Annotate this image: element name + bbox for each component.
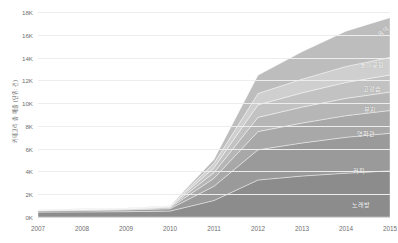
stacked-area-chart: 카테고리 총 매출 (단위: 건) 0K2K4K6K8K10K12K14K16K… xyxy=(0,0,398,243)
y-axis-tick-label: 16K xyxy=(0,31,33,38)
x-axis-tick-label: 2011 xyxy=(207,225,221,232)
y-axis-tick-label: 18K xyxy=(0,9,33,16)
gridline xyxy=(38,103,390,104)
gridline xyxy=(38,80,390,81)
series-label: 놀이공원 xyxy=(360,60,384,69)
x-axis-tick-label: 2014 xyxy=(339,225,353,232)
plot-area xyxy=(0,0,398,243)
series-label: 뮤지 xyxy=(364,105,376,114)
series-label: 노래방 xyxy=(352,200,370,209)
gridline xyxy=(38,58,390,59)
y-axis-tick-label: 0K xyxy=(0,214,33,221)
gridline xyxy=(38,35,390,36)
gridline xyxy=(38,149,390,150)
series-label: 커피 xyxy=(353,165,365,174)
x-axis-tick-label: 2008 xyxy=(75,225,89,232)
y-axis-tick-label: 2K xyxy=(0,191,33,198)
x-axis-tick-label: 2015 xyxy=(383,225,397,232)
gridline xyxy=(38,12,390,13)
y-axis-tick-label: 10K xyxy=(0,100,33,107)
y-axis-tick-label: 14K xyxy=(0,54,33,61)
y-axis-tick-label: 12K xyxy=(0,77,33,84)
y-axis-tick-label: 4K xyxy=(0,168,33,175)
x-axis-tick-label: 2009 xyxy=(119,225,133,232)
x-axis-tick-label: 2007 xyxy=(31,225,45,232)
y-axis-tick-label: 8K xyxy=(0,122,33,129)
series-label: 고강습 xyxy=(363,84,381,93)
x-axis-tick-label: 2013 xyxy=(295,225,309,232)
x-axis-tick-label: 2010 xyxy=(163,225,177,232)
gridline xyxy=(38,194,390,195)
series-label: 영화관 xyxy=(357,129,375,138)
x-axis-tick-label: 2012 xyxy=(251,225,265,232)
y-axis-tick-label: 6K xyxy=(0,145,33,152)
gridline xyxy=(38,126,390,127)
x-axis-line xyxy=(38,217,390,218)
gridline xyxy=(38,171,390,172)
